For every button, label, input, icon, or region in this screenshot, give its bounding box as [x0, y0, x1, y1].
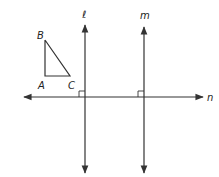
- line-label-m: m: [140, 10, 150, 21]
- line-label-l: ℓ: [82, 9, 86, 20]
- vertex-label-c: C: [68, 80, 75, 91]
- geometry-diagram: B A C n ℓ m: [0, 0, 219, 177]
- line-m: m: [140, 10, 150, 173]
- line-label-n: n: [207, 92, 213, 103]
- vertex-label-b: B: [37, 30, 44, 41]
- line-n: n: [24, 92, 213, 103]
- right-angle-mark-m-n: [138, 91, 144, 97]
- right-angle-mark-l-n: [79, 91, 85, 97]
- triangle-abc: B A C: [37, 30, 75, 91]
- vertex-label-a: A: [37, 80, 45, 91]
